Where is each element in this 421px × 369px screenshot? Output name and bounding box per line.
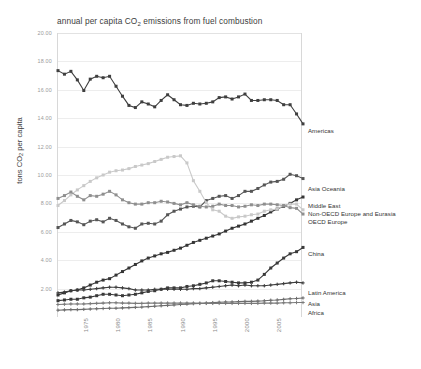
data-point-marker: [82, 302, 85, 305]
data-point-marker: [82, 308, 85, 311]
data-point-marker: [89, 284, 92, 287]
data-point-marker: [127, 306, 130, 309]
data-point-marker: [295, 207, 298, 210]
data-point-marker: [82, 198, 85, 201]
data-point-marker: [269, 267, 272, 270]
data-point-marker: [192, 287, 195, 290]
data-point-marker: [108, 190, 111, 193]
data-point-marker: [282, 178, 285, 181]
y-tick-label: 2.00: [41, 286, 52, 292]
y-tick-label: 20.00: [38, 30, 53, 36]
data-point-marker: [153, 160, 156, 163]
data-point-marker: [95, 176, 98, 179]
data-point-marker: [89, 296, 92, 299]
y-tick-label: 6.00: [41, 229, 52, 235]
data-point-marker: [121, 198, 124, 201]
data-point-marker: [205, 286, 208, 289]
data-point-marker: [115, 169, 118, 172]
data-point-marker: [134, 227, 137, 230]
subscript-two: 2: [137, 21, 140, 27]
data-point-marker: [269, 98, 272, 101]
data-point-marker: [56, 308, 59, 311]
x-tick-label: 2005: [276, 318, 282, 332]
chart-figure: annual per capita CO2 emissions from fue…: [0, 0, 421, 369]
data-point-marker: [276, 208, 279, 211]
data-point-marker: [289, 173, 292, 176]
chart-title: annual per capita CO2 emissions from fue…: [57, 16, 262, 26]
data-point-marker: [63, 303, 66, 306]
data-point-marker: [173, 202, 176, 205]
data-point-marker: [224, 284, 227, 287]
data-point-marker: [82, 296, 85, 299]
data-point-marker: [179, 247, 182, 250]
data-point-marker: [147, 162, 150, 165]
data-point-marker: [243, 93, 246, 96]
data-point-marker: [192, 284, 195, 287]
data-point-marker: [231, 204, 234, 207]
data-point-marker: [231, 217, 234, 220]
y-tick-label: 14.00: [38, 115, 53, 121]
data-point-marker: [250, 190, 253, 193]
data-point-marker: [82, 223, 85, 226]
data-point-marker: [89, 307, 92, 310]
data-point-marker: [250, 203, 253, 206]
series-line: [58, 71, 303, 124]
data-point-marker: [256, 204, 259, 207]
data-point-marker: [211, 279, 214, 282]
data-point-marker: [57, 299, 60, 302]
data-point-marker: [127, 225, 130, 228]
data-point-marker: [276, 180, 279, 183]
data-point-marker: [243, 215, 246, 218]
data-point-marker: [224, 95, 227, 98]
data-point-marker: [159, 301, 162, 304]
data-point-marker: [218, 279, 221, 282]
data-point-marker: [166, 93, 169, 96]
data-point-marker: [121, 270, 124, 273]
data-point-marker: [256, 302, 259, 305]
data-point-marker: [282, 301, 285, 304]
data-point-marker: [108, 75, 111, 78]
data-point-marker: [224, 280, 227, 283]
data-point-marker: [153, 222, 156, 225]
data-point-marker: [230, 283, 233, 286]
data-point-marker: [231, 197, 234, 200]
series-line: [58, 247, 303, 300]
data-point-marker: [256, 187, 259, 190]
data-point-marker: [205, 237, 208, 240]
data-point-marker: [231, 227, 234, 230]
data-point-marker: [127, 167, 130, 170]
data-point-marker: [263, 284, 266, 287]
data-point-marker: [218, 232, 221, 235]
data-point-marker: [76, 308, 79, 311]
data-point-marker: [211, 197, 214, 200]
data-point-marker: [160, 220, 163, 223]
data-point-marker: [173, 98, 176, 101]
legend-label-americas: Americas: [308, 128, 334, 134]
data-point-marker: [147, 103, 150, 106]
data-point-marker: [192, 203, 195, 206]
data-point-marker: [134, 263, 137, 266]
x-tick-label: 1985: [147, 318, 153, 332]
data-point-marker: [295, 174, 298, 177]
data-point-marker: [243, 302, 246, 305]
legend-label-asia-oceania: Asia Oceania: [308, 186, 345, 192]
data-point-marker: [160, 158, 163, 161]
data-point-marker: [263, 214, 266, 217]
subscript-two: 2: [18, 153, 24, 156]
data-point-marker: [237, 95, 240, 98]
data-point-marker: [127, 267, 130, 270]
data-point-marker: [205, 302, 208, 305]
legend-label-non-oecd-europe-and-eurasia: Non-OECD Europe and Eurasia: [308, 211, 396, 217]
data-point-marker: [185, 104, 188, 107]
data-point-marker: [153, 105, 156, 108]
data-point-marker: [295, 198, 298, 201]
data-point-marker: [140, 164, 143, 167]
data-point-marker: [95, 294, 98, 297]
data-point-marker: [288, 301, 291, 304]
data-point-marker: [89, 220, 92, 223]
data-point-marker: [114, 285, 117, 288]
data-point-marker: [179, 208, 182, 211]
data-point-marker: [198, 283, 201, 286]
legend-label-latin-america: Latin America: [308, 290, 346, 296]
data-point-marker: [288, 281, 291, 284]
